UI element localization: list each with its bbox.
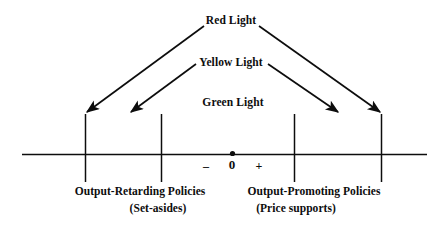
- origin-dot: [230, 151, 235, 156]
- yellow-light-arrow-right: [268, 64, 338, 112]
- green-light-label: Green Light: [202, 97, 263, 109]
- yellow-light-arrow-left: [131, 64, 196, 112]
- yellow-light-label: Yellow Light: [199, 57, 263, 69]
- red-light-arrow-left: [87, 26, 204, 112]
- plus-sign-label: +: [256, 160, 263, 172]
- left-policy-title: Output-Retarding Policies: [75, 186, 206, 198]
- left-policy-subtitle: (Set-asides): [130, 203, 187, 215]
- minus-sign-label: –: [203, 160, 209, 172]
- policy-traffic-light-diagram: Red Light Yellow Light Green Light – 0 +…: [0, 0, 447, 226]
- right-policy-title: Output-Promoting Policies: [248, 186, 381, 198]
- zero-label: 0: [229, 158, 236, 171]
- red-light-label: Red Light: [206, 15, 256, 27]
- right-policy-subtitle: (Price supports): [256, 203, 336, 215]
